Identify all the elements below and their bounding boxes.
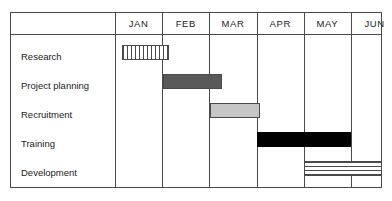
task-label-research: Research bbox=[21, 49, 113, 63]
month-header-feb: FEB bbox=[162, 13, 209, 34]
month-header-jan: JAN bbox=[115, 13, 162, 34]
gantt-bar-project-planning[interactable] bbox=[163, 74, 222, 89]
header-corner-cell bbox=[11, 13, 115, 34]
gantt-chart: JAN FEB MAR APR MAY JUN Research Project… bbox=[0, 0, 392, 201]
chart-frame: JAN FEB MAR APR MAY JUN Research Project… bbox=[10, 12, 382, 188]
month-header-may: MAY bbox=[304, 13, 351, 34]
task-label-project-planning: Project planning bbox=[21, 78, 113, 92]
gantt-bar-training[interactable] bbox=[257, 132, 351, 147]
task-label-recruitment: Recruitment bbox=[21, 107, 113, 121]
month-header-apr: APR bbox=[257, 13, 304, 34]
gantt-body: Research Project planning Recruitment Tr… bbox=[11, 35, 381, 187]
task-label-development: Development bbox=[21, 165, 113, 179]
gantt-bar-development[interactable] bbox=[304, 161, 382, 176]
task-label-training: Training bbox=[21, 136, 113, 150]
month-header-row: JAN FEB MAR APR MAY JUN bbox=[11, 13, 381, 35]
gantt-bar-recruitment[interactable] bbox=[210, 103, 260, 118]
month-header-jun: JUN bbox=[351, 13, 392, 34]
month-header-mar: MAR bbox=[209, 13, 256, 34]
gantt-bar-research[interactable] bbox=[122, 45, 169, 60]
